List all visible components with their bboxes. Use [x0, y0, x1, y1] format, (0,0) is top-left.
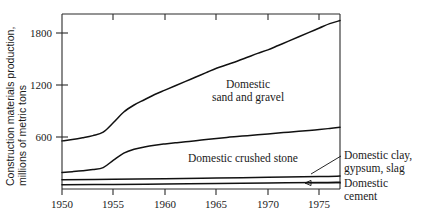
- annotation-cement-line2: cement: [344, 190, 378, 202]
- series-domestic-clay-gypsum-slag: [62, 176, 340, 180]
- y-axis-title-line2: millions of metric tons: [16, 85, 28, 186]
- y-tick-label-1200: 1200: [30, 79, 53, 91]
- annotation-cement-line1: Domestic: [344, 177, 388, 189]
- annotation-clay-gypsum-slag: Domestic clay, gypsum, slag: [311, 149, 412, 175]
- y-axis-title: Construction materials production, milli…: [4, 27, 28, 186]
- series-domestic-cement: [62, 182, 340, 185]
- y-axis-title-line1: Construction materials production,: [4, 27, 16, 186]
- chart-svg: Construction materials production, milli…: [0, 0, 427, 222]
- x-tick-label-1970: 1970: [257, 198, 280, 210]
- x-tick-label-1965: 1965: [205, 198, 228, 210]
- x-tick-label-1975: 1975: [308, 198, 331, 210]
- annotation-sand-gravel-line2: sand and gravel: [212, 91, 284, 104]
- annotation-crushed-stone: Domestic crushed stone: [188, 152, 298, 164]
- y-tick-label-600: 600: [36, 131, 53, 143]
- annotation-sand-gravel-line1: Domestic: [226, 78, 270, 90]
- x-axis-ticks: 1950 1955 1960 1965 1970 1975: [51, 14, 331, 210]
- chart-figure: Construction materials production, milli…: [0, 0, 427, 222]
- series-domestic-sand-and-gravel: [62, 21, 340, 141]
- annotation-clay-line1: Domestic clay,: [344, 149, 412, 162]
- x-tick-label-1955: 1955: [102, 198, 125, 210]
- annotation-clay-line2: gypsum, slag: [344, 162, 405, 175]
- leader-line-clay: [311, 156, 341, 174]
- y-tick-label-1800: 1800: [30, 27, 53, 39]
- x-tick-label-1950: 1950: [51, 198, 74, 210]
- annotation-sand-and-gravel: Domestic sand and gravel: [212, 78, 284, 104]
- x-tick-label-1960: 1960: [154, 198, 177, 210]
- series-domestic-crushed-stone: [62, 127, 340, 172]
